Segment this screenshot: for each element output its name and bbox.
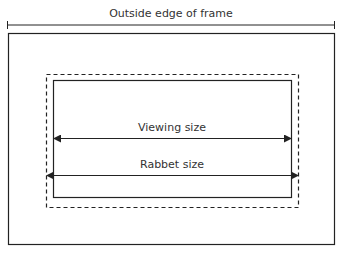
viewing-size-label: Viewing size [138,121,206,134]
outside-edge-label: Outside edge of frame [109,7,233,20]
rabbet-size-label: Rabbet size [140,158,204,171]
outside-edge-dimension-line [8,21,335,29]
frame-size-diagram: Outside edge of frame Viewing size Rabbe… [0,0,350,253]
rabbet-outline [47,75,299,208]
